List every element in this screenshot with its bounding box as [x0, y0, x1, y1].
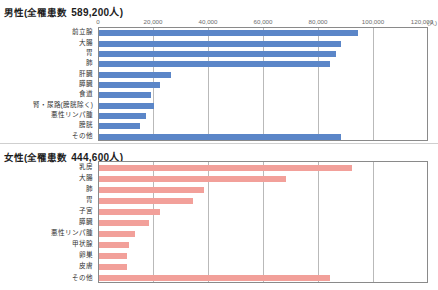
female-cat-9: 皮膚 [79, 263, 93, 270]
table-row [99, 229, 427, 240]
female-bar-5 [99, 220, 149, 226]
table-row [99, 59, 427, 69]
female-cat-0: 乳房 [79, 163, 93, 170]
male-plot-area [98, 27, 428, 141]
female-cat-4: 子宮 [79, 208, 93, 215]
male-bar-8 [99, 113, 146, 119]
table-row [99, 217, 427, 228]
table-row [99, 173, 427, 184]
x-tick-100000: 100,000 [362, 18, 384, 25]
female-bar-4 [99, 209, 160, 215]
male-bar-1 [99, 41, 341, 47]
male-total-value: 589,200人) [71, 7, 123, 18]
male-cat-7: 腎・尿路(膀胱除く) [33, 101, 93, 108]
table-row [99, 38, 427, 48]
male-cat-6: 食道 [79, 91, 93, 98]
table-row [99, 101, 427, 111]
x-tick-20000: 20,000 [144, 18, 163, 25]
male-bar-6 [99, 92, 151, 98]
female-cat-7: 甲状腺 [72, 241, 93, 248]
male-bar-3 [99, 61, 330, 67]
table-row [99, 132, 427, 142]
male-bar-rows [99, 28, 427, 140]
female-bar-7 [99, 242, 129, 248]
cancer-incidence-chart: 男性(全罹患数589,200人) 0 20,000 40,000 60,000 … [0, 0, 438, 290]
female-bar-rows [99, 162, 427, 282]
table-row [99, 111, 427, 121]
male-bar-9 [99, 123, 140, 129]
female-bar-6 [99, 231, 135, 237]
table-row [99, 184, 427, 195]
panel-divider [0, 143, 438, 144]
male-bar-5 [99, 82, 160, 88]
male-bar-7 [99, 103, 154, 109]
male-cat-9: 膀胱 [79, 122, 93, 129]
x-tick-80000: 80,000 [309, 18, 328, 25]
female-cat-5: 膵臓 [79, 219, 93, 226]
x-tick-40000: 40,000 [199, 18, 218, 25]
female-cat-2: 肺 [86, 185, 93, 192]
female-cat-10: その他 [72, 274, 93, 281]
female-category-labels: 乳房 大腸 肺 胃 子宮 膵臓 悪性リンパ腫 甲状腺 卵巣 皮膚 その他 [0, 161, 95, 283]
male-cat-4: 肝臓 [79, 70, 93, 77]
male-chart-panel: 男性(全罹患数589,200人) 0 20,000 40,000 60,000 … [0, 0, 438, 145]
female-bar-8 [99, 253, 127, 259]
table-row [99, 240, 427, 251]
table-row [99, 49, 427, 59]
x-tick-0: 0 [96, 18, 99, 25]
male-bar-2 [99, 51, 336, 57]
female-cat-6: 悪性リンパ腫 [51, 230, 93, 237]
female-bar-10 [99, 275, 330, 281]
female-cat-8: 卵巣 [79, 252, 93, 259]
male-cat-8: 悪性リンパ腫 [51, 112, 93, 119]
male-cat-2: 胃 [86, 50, 93, 57]
female-bar-9 [99, 264, 127, 270]
table-row [99, 69, 427, 79]
male-cat-5: 膵臓 [79, 81, 93, 88]
table-row [99, 206, 427, 217]
male-category-labels: 前立腺 大腸 胃 肺 肝臓 膵臓 食道 腎・尿路(膀胱除く) 悪性リンパ腫 膀胱… [0, 27, 95, 141]
table-row [99, 121, 427, 131]
female-plot-area [98, 161, 428, 283]
male-bar-4 [99, 72, 171, 78]
male-cat-0: 前立腺 [72, 29, 93, 36]
male-sex-label: 男性 [4, 7, 24, 18]
female-bar-0 [99, 165, 352, 171]
female-chart-panel: 女性(全罹患数444,600人) 乳房 大腸 肺 胃 子宮 膵臓 悪性リンパ腫 … [0, 145, 438, 290]
male-cat-10: その他 [72, 132, 93, 139]
female-cat-3: 胃 [86, 197, 93, 204]
male-panel-title: 男性(全罹患数589,200人) [4, 4, 123, 19]
table-row [99, 80, 427, 90]
male-cat-1: 大腸 [79, 39, 93, 46]
table-row [99, 195, 427, 206]
table-row [99, 90, 427, 100]
table-row [99, 28, 427, 38]
male-bar-10 [99, 134, 341, 140]
table-row [99, 273, 427, 284]
female-bar-2 [99, 187, 204, 193]
female-cat-1: 大腸 [79, 174, 93, 181]
female-bar-3 [99, 198, 193, 204]
male-total-label: (全罹患数 [24, 7, 67, 18]
x-axis-unit: (人) [427, 18, 437, 27]
table-row [99, 162, 427, 173]
male-bar-0 [99, 30, 358, 36]
male-cat-3: 肺 [86, 60, 93, 67]
x-tick-60000: 60,000 [254, 18, 273, 25]
table-row [99, 262, 427, 273]
female-bar-1 [99, 176, 286, 182]
table-row [99, 251, 427, 262]
